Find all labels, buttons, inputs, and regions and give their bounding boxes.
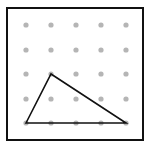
peg-dot — [48, 47, 53, 52]
peg-dot — [23, 47, 28, 52]
peg-dot — [23, 22, 28, 27]
peg-dot — [73, 22, 78, 27]
peg-dot — [123, 71, 128, 76]
geoboard-diagram — [0, 0, 149, 148]
peg-dot — [98, 22, 103, 27]
peg-dot — [98, 96, 103, 101]
peg-dot — [98, 47, 103, 52]
peg-dot — [48, 22, 53, 27]
peg-dot — [23, 96, 28, 101]
peg-dot — [73, 96, 78, 101]
peg-dot — [123, 47, 128, 52]
peg-dot — [123, 22, 128, 27]
peg-dot — [123, 96, 128, 101]
peg-dot — [98, 71, 103, 76]
peg-dot — [23, 71, 28, 76]
peg-dot — [73, 71, 78, 76]
peg-dot — [48, 96, 53, 101]
peg-grid — [23, 22, 128, 125]
peg-dot — [73, 47, 78, 52]
